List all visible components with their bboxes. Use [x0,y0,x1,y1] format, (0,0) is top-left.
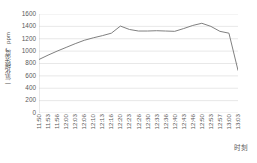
x-tick-label: 12:26 [136,114,143,129]
x-tick-label: 12:16 [108,114,115,129]
x-tick-label: 12:36 [163,114,170,129]
line-chart: 一氧化碳浓度，ppm 02004006008001000120014001600… [0,0,257,163]
x-tick-label: 12:23 [126,114,133,129]
y-axis-title-label: 一氧化碳浓度，ppm [3,32,12,86]
plot-area [39,14,238,113]
x-axis-title: 时刻 [234,142,248,152]
y-tick-label: 200 [25,97,36,103]
y-tick-label: 1600 [22,11,36,17]
x-tick-label: 12:53 [208,114,215,129]
y-tick-label: 800 [25,60,36,66]
y-tick-label: 1000 [22,48,36,54]
x-tick-label: 11:56 [54,114,61,129]
y-axis-title: 一氧化碳浓度，ppm [0,0,14,118]
x-tick-label: 12:33 [154,114,161,129]
x-tick-label: 12:06 [81,114,88,129]
x-tick-label: 13:03 [235,114,242,129]
x-tick-label: 12:10 [90,114,97,129]
x-axis-tick-labels: 11:5011:5311:5612:0012:0312:0612:1012:13… [39,113,238,143]
x-tick-label: 12:57 [217,114,224,129]
x-tick-label: 12:13 [99,114,106,129]
x-tick-label: 11:53 [45,114,52,129]
y-tick-label: 1200 [22,36,36,42]
y-tick-label: 600 [25,73,36,79]
x-tick-label: 12:46 [190,114,197,129]
plot-svg [39,14,238,113]
x-tick-label: 12:00 [63,114,70,129]
y-tick-label: 1400 [22,23,36,29]
x-tick-label: 13:00 [226,114,233,129]
x-tick-label: 12:43 [181,114,188,129]
y-tick-label: 400 [25,85,36,91]
x-tick-label: 12:20 [117,114,124,129]
x-tick-label: 12:40 [172,114,179,129]
y-axis-tick-labels: 02004006008001000120014001600 [14,0,38,118]
x-tick-label: 12:03 [72,114,79,129]
gridlines [39,14,238,113]
x-tick-label: 12:50 [199,114,206,129]
x-tick-label: 11:50 [36,114,43,129]
x-tick-label: 12:30 [145,114,152,129]
